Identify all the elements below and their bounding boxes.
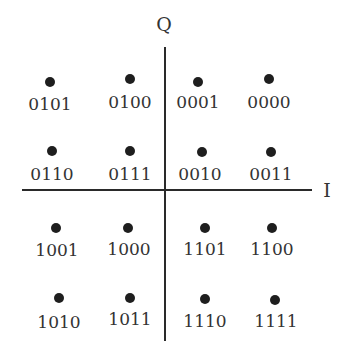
symbol-label: 1100	[250, 239, 293, 259]
symbol-dot	[125, 146, 135, 156]
symbol-label: 0101	[28, 94, 71, 114]
symbol-label: 0000	[247, 92, 290, 112]
symbol-dot	[51, 223, 61, 233]
symbol-label: 1110	[183, 311, 226, 331]
symbol-dot	[267, 223, 277, 233]
symbol-dot	[264, 74, 274, 84]
constellation-point: 0110	[30, 146, 73, 184]
symbol-dot	[270, 295, 280, 305]
symbol-label: 0001	[176, 92, 219, 112]
symbol-dot	[45, 77, 55, 87]
symbol-label: 0110	[30, 164, 73, 184]
constellation-point: 1100	[250, 223, 293, 259]
symbol-label: 1010	[37, 312, 80, 332]
constellation-point: 1010	[37, 293, 80, 332]
symbol-label: 1000	[107, 239, 150, 259]
symbol-dot	[197, 147, 207, 157]
symbol-label: 0011	[249, 164, 292, 184]
constellation-point: 1000	[107, 223, 150, 259]
symbol-dot	[47, 146, 57, 156]
symbol-label: 1101	[183, 239, 226, 259]
symbol-label: 0100	[108, 92, 151, 112]
constellation-point: 1011	[108, 293, 151, 329]
constellation-point: 0011	[249, 147, 292, 184]
constellation-point: 1101	[183, 223, 226, 259]
symbol-dot	[266, 147, 276, 157]
q-axis-label: Q	[156, 13, 172, 35]
constellation-point: 1110	[183, 294, 226, 331]
constellation-diagram: Q I 0101 0100 0001 0000 0110 0111	[0, 0, 350, 360]
constellation-point: 1001	[35, 223, 78, 260]
symbol-dot	[193, 77, 203, 87]
constellation-point: 0111	[108, 146, 151, 184]
symbol-dot	[125, 74, 135, 84]
symbol-dot	[123, 223, 133, 233]
constellation-point: 0101	[28, 77, 71, 114]
i-axis-label: I	[323, 179, 331, 201]
symbol-dot	[125, 293, 135, 303]
symbol-label: 1001	[35, 240, 78, 260]
constellation-point: 0010	[178, 147, 221, 184]
constellation-point: 0100	[108, 74, 151, 112]
symbol-dot	[200, 294, 210, 304]
constellation-point: 1111	[254, 295, 297, 331]
constellation-point: 0001	[176, 77, 219, 112]
symbol-label: 0010	[178, 164, 221, 184]
symbol-label: 1111	[254, 311, 297, 331]
symbol-dot	[54, 293, 64, 303]
symbol-label: 1011	[108, 309, 151, 329]
constellation-point: 0000	[247, 74, 290, 112]
symbol-label: 0111	[108, 164, 151, 184]
symbol-dot	[200, 223, 210, 233]
